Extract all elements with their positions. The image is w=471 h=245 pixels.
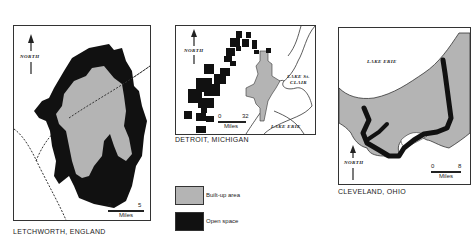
- scale-bar: 0 8 Miles: [431, 170, 469, 185]
- scale-start: 0: [218, 113, 221, 119]
- scale-end: 5: [138, 202, 141, 208]
- lake-erie-label: LAKE ERIE: [367, 59, 397, 64]
- scale-end: 32: [242, 113, 249, 119]
- legend-label-open-space: Open space: [206, 218, 238, 224]
- north-label: NORTH: [20, 54, 40, 59]
- north-arrow-icon: [191, 29, 197, 64]
- letchworth-caption: LETCHWORTH, ENGLAND: [13, 228, 106, 235]
- scale-bar: 0 5 Miles: [108, 209, 148, 221]
- built-up-area: [246, 51, 280, 121]
- cleveland-caption: CLEVELAND, OHIO: [338, 188, 406, 195]
- scale-unit: Miles: [119, 212, 133, 218]
- north-label: NORTH: [344, 160, 364, 165]
- legend-label-built-up: Built-up area: [206, 192, 240, 198]
- lake-erie-label: LAKE ERIE: [271, 124, 301, 129]
- scale-unit: Miles: [224, 123, 238, 129]
- north-label: NORTH: [184, 48, 204, 53]
- scale-start: 0: [108, 202, 111, 208]
- lake-st-clair-line2: CLAIR: [287, 80, 310, 86]
- lake-st-clair-label: LAKE St. CLAIR: [287, 74, 310, 86]
- scale-unit: Miles: [439, 173, 453, 179]
- shoreline: [274, 111, 304, 134]
- scale-start: 0: [431, 163, 434, 169]
- river: [288, 26, 301, 56]
- scale-end: 8: [458, 163, 461, 169]
- letchworth-map: NORTH 0 5 Miles: [13, 25, 151, 221]
- legend-swatch-built-up: [175, 186, 204, 205]
- scale-bar: 0 32 Miles: [218, 120, 258, 135]
- cleveland-map: LAKE ERIE NORTH 0 8 Miles: [338, 27, 471, 185]
- detroit-caption: DETROIT, MICHIGAN: [175, 136, 249, 143]
- legend-swatch-open-space: [175, 212, 204, 231]
- detroit-map: NORTH LAKE St. CLAIR LAKE ERIE 0 32 Mile…: [175, 25, 316, 135]
